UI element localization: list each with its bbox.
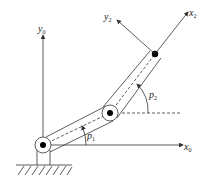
y2-axis <box>117 20 155 54</box>
label-x0: x0 <box>183 141 191 153</box>
elbow-joint <box>102 105 118 121</box>
label-p1: p1 <box>86 130 95 142</box>
base-joint <box>35 137 51 153</box>
ground <box>16 165 72 175</box>
x2-axis <box>155 12 188 54</box>
label-x2: x2 <box>188 7 196 19</box>
label-p2: p2 <box>148 89 157 101</box>
robot-arm-diagram: y0 x0 y2 x2 p1 p2 <box>0 0 205 188</box>
label-y2: y2 <box>103 11 111 23</box>
label-y0: y0 <box>37 23 45 35</box>
